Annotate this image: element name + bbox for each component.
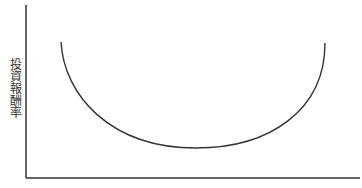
y-axis-label: 投資報酬率: [4, 58, 20, 118]
u-curve-chart: [0, 0, 362, 188]
return-curve: [61, 42, 325, 148]
